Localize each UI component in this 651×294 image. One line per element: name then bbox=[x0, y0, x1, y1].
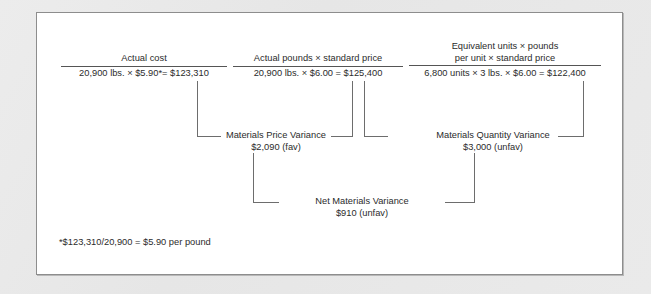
connector-col3-horizontal bbox=[558, 136, 584, 137]
formula-actual-cost: Actual cost 20,900 lbs. × $5.90*= $123,3… bbox=[61, 53, 227, 80]
connector-col3-vertical bbox=[583, 81, 584, 137]
formula-equivalent-units-denominator: 6,800 units × 3 lbs. × $6.00 = $122,400 bbox=[409, 66, 601, 79]
connector-price-variance-vertical bbox=[253, 153, 254, 203]
formula-actual-cost-denominator: 20,900 lbs. × $5.90*= $123,310 bbox=[61, 67, 227, 80]
diagram-panel: Actual cost 20,900 lbs. × $5.90*= $123,3… bbox=[36, 12, 623, 275]
footnote: *$123,310/20,900 = $5.90 per pound bbox=[59, 237, 211, 247]
connector-col1-horizontal bbox=[197, 136, 221, 137]
net-materials-variance: Net Materials Variance $910 (unfav) bbox=[278, 196, 446, 219]
formula-actual-pounds-standard-price: Actual pounds × standard price 20,900 lb… bbox=[233, 53, 403, 80]
connector-quantity-variance-horizontal bbox=[445, 202, 475, 203]
formula-actual-pounds-denominator: 20,900 lbs. × $6.00 = $125,400 bbox=[233, 67, 403, 80]
materials-quantity-variance: Materials Quantity Variance $3,000 (unfa… bbox=[426, 130, 560, 153]
materials-price-variance-label: Materials Price Variance bbox=[219, 130, 333, 142]
connector-col2-right-horizontal bbox=[364, 136, 388, 137]
connector-price-variance-horizontal bbox=[253, 202, 279, 203]
page-background: Actual cost 20,900 lbs. × $5.90*= $123,3… bbox=[0, 0, 651, 294]
connector-quantity-variance-vertical bbox=[474, 153, 475, 203]
materials-price-variance-amount: $2,090 (fav) bbox=[219, 142, 333, 154]
materials-quantity-variance-label: Materials Quantity Variance bbox=[426, 130, 560, 142]
connector-col1-vertical bbox=[197, 81, 198, 137]
formula-actual-pounds-numerator: Actual pounds × standard price bbox=[233, 53, 403, 67]
connector-col2-left-vertical bbox=[352, 81, 353, 137]
net-materials-variance-label: Net Materials Variance bbox=[278, 196, 446, 208]
formula-equivalent-units: Equivalent units × pounds per unit × sta… bbox=[409, 41, 601, 79]
connector-col2-left-horizontal bbox=[331, 136, 353, 137]
formula-equivalent-units-numerator-line1: Equivalent units × pounds bbox=[409, 41, 601, 53]
materials-price-variance: Materials Price Variance $2,090 (fav) bbox=[219, 130, 333, 153]
materials-quantity-variance-amount: $3,000 (unfav) bbox=[426, 142, 560, 154]
connector-col2-right-vertical bbox=[364, 81, 365, 137]
net-materials-variance-amount: $910 (unfav) bbox=[278, 208, 446, 220]
formula-actual-cost-numerator: Actual cost bbox=[61, 53, 227, 67]
formula-equivalent-units-numerator-line2: per unit × standard price bbox=[409, 53, 601, 67]
